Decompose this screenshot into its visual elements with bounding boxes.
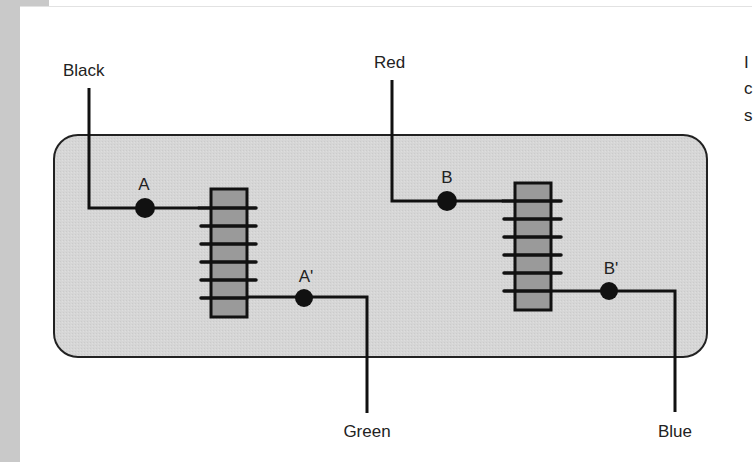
green-wire-label: Green — [343, 422, 390, 441]
terminal-a-label: A — [138, 175, 150, 194]
blue-wire-label: Blue — [658, 422, 692, 441]
terminal-b-label: B — [441, 168, 452, 187]
red-wire-label: Red — [374, 53, 405, 72]
transformer-housing — [54, 135, 707, 357]
clipped-text-line-3: s — [744, 107, 753, 124]
clipped-text-line-2: c — [744, 80, 753, 97]
terminal-a-prime-dot — [295, 289, 313, 307]
terminal-a-prime-label: A' — [299, 267, 314, 286]
terminal-b-prime-dot — [600, 282, 618, 300]
black-wire-label: Black — [63, 61, 105, 80]
clipped-text-line-1: I — [744, 54, 749, 71]
terminal-b-dot — [437, 191, 457, 211]
terminal-b-prime-label: B' — [604, 259, 619, 278]
terminal-a-dot — [135, 198, 155, 218]
